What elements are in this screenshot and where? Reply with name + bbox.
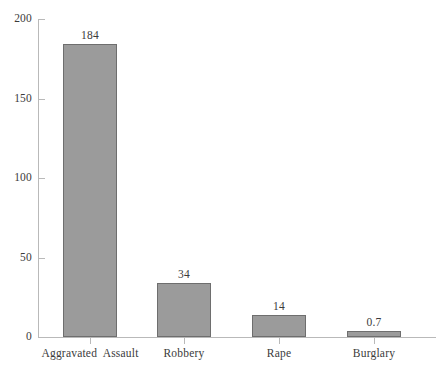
y-tick-label: 100 [0, 172, 32, 184]
y-tick-mark [38, 19, 45, 20]
y-tick-label-text: 200 [2, 13, 32, 25]
x-axis-line [38, 337, 436, 338]
y-tick-label: 50 [0, 252, 32, 264]
y-tick-label-text: 0 [2, 331, 32, 343]
y-tick-label: 150 [0, 93, 32, 105]
y-tick-mark [38, 99, 45, 100]
y-tick-mark [38, 178, 45, 179]
bar-value-label: 14 [249, 300, 309, 312]
y-tick-label: 0 [0, 331, 32, 343]
y-tick-label-text: 150 [2, 93, 32, 105]
bar [63, 44, 117, 337]
x-tick-mark [90, 338, 91, 344]
bar [347, 331, 401, 337]
bar [252, 315, 306, 337]
y-tick-label: 200 [0, 13, 32, 25]
bar-value-label: 34 [154, 268, 214, 280]
bar-chart: 050100150200 184Aggravated Assault34Robb… [0, 0, 440, 369]
y-tick-label-text: 100 [2, 172, 32, 184]
y-tick-label-text: 50 [2, 252, 32, 264]
x-tick-mark [184, 338, 185, 344]
x-tick-mark [374, 338, 375, 344]
bar-value-label: 184 [60, 29, 120, 41]
y-tick-mark [38, 258, 45, 259]
bar-value-label: 0.7 [344, 316, 404, 328]
x-category-label: Burglary [314, 347, 434, 360]
bar [157, 283, 211, 337]
x-tick-mark [279, 338, 280, 344]
